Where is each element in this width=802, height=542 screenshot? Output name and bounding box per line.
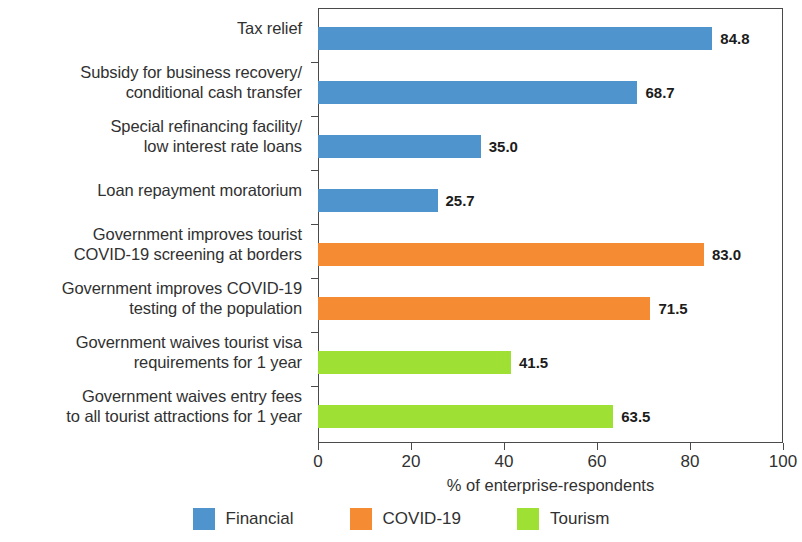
- bar-value-label: 68.7: [645, 81, 674, 104]
- bar: [318, 351, 511, 374]
- bar: [318, 135, 481, 158]
- y-axis-tick: [311, 170, 318, 171]
- x-axis-tick: [318, 443, 319, 450]
- x-axis-tick-label: 60: [588, 452, 607, 472]
- bar: [318, 27, 712, 50]
- category-label: Government improves COVID-19 testing of …: [2, 278, 302, 318]
- legend-label: Tourism: [550, 509, 610, 529]
- bar: [318, 297, 650, 320]
- category-label: Government waives entry fees to all tour…: [2, 386, 302, 426]
- bar-value-label: 83.0: [712, 243, 741, 266]
- x-axis-tick: [690, 443, 691, 450]
- y-axis-tick: [311, 386, 318, 387]
- bar-value-label: 41.5: [519, 351, 548, 374]
- bar: [318, 81, 637, 104]
- bar: [318, 243, 704, 266]
- x-axis-tick: [597, 443, 598, 450]
- y-axis-tick: [311, 62, 318, 63]
- category-label: Special refinancing facility/ low intere…: [2, 116, 302, 156]
- legend-label: COVID-19: [383, 509, 461, 529]
- x-axis-tick-label: 0: [313, 452, 322, 472]
- y-axis-tick: [311, 332, 318, 333]
- legend-label: Financial: [226, 509, 294, 529]
- x-axis-tick: [783, 443, 784, 450]
- bar-value-label: 35.0: [489, 135, 518, 158]
- bar-value-label: 71.5: [658, 297, 687, 320]
- legend: Financial COVID-19 Tourism: [0, 508, 802, 530]
- y-axis-tick: [311, 224, 318, 225]
- legend-swatch-icon: [193, 508, 215, 530]
- category-label-column: Tax relief Subsidy for business recovery…: [0, 8, 310, 443]
- bar-value-label: 63.5: [621, 405, 650, 428]
- category-label: Subsidy for business recovery/ condition…: [2, 62, 302, 102]
- bar-chart-figure: Tax relief Subsidy for business recovery…: [0, 0, 802, 542]
- legend-item-financial: Financial: [193, 508, 294, 530]
- bar: [318, 405, 613, 428]
- category-label: Loan repayment moratorium: [2, 180, 302, 200]
- bar-value-label: 25.7: [446, 189, 475, 212]
- category-label: Tax relief: [2, 18, 302, 38]
- x-axis-tick: [411, 443, 412, 450]
- bar-value-label: 84.8: [720, 27, 749, 50]
- category-label: Government improves tourist COVID-19 scr…: [2, 224, 302, 264]
- category-label: Government waives tourist visa requireme…: [2, 332, 302, 372]
- x-axis-tick: [504, 443, 505, 450]
- legend-swatch-icon: [350, 508, 372, 530]
- x-axis-tick-label: 100: [769, 452, 797, 472]
- legend-swatch-icon: [517, 508, 539, 530]
- x-axis-title: % of enterprise-respondents: [318, 476, 783, 495]
- legend-item-tourism: Tourism: [517, 508, 610, 530]
- y-axis-tick: [311, 116, 318, 117]
- bar: [318, 189, 438, 212]
- x-axis-tick-label: 20: [402, 452, 421, 472]
- x-axis-tick-label: 80: [681, 452, 700, 472]
- bars-layer: 84.8 68.7 35.0 25.7 83.0 71.5 41.5 63.5: [318, 8, 783, 443]
- x-axis-tick-label: 40: [495, 452, 514, 472]
- legend-item-covid-19: COVID-19: [350, 508, 461, 530]
- y-axis-tick: [311, 278, 318, 279]
